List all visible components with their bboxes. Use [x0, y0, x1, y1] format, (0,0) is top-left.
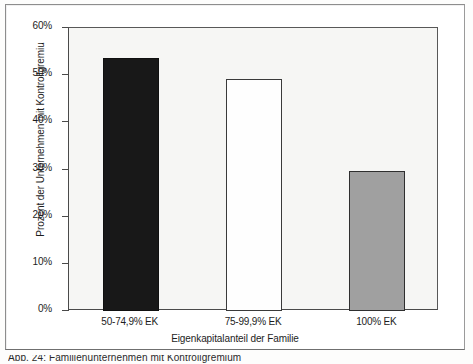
bar-1 — [103, 58, 159, 311]
y-axis-tick-label: 50% — [8, 67, 52, 78]
x-axis-label-2: 75-99,9% EK — [193, 316, 313, 327]
x-axis-label-1: 50-74,9% EK — [70, 316, 190, 327]
figure-caption-strip: Abb. 24: Familienunternehmen mit Kontrol… — [8, 355, 463, 364]
bar-chart: Prozent der Unternehmen mit Kontrollgrem… — [5, 4, 465, 350]
y-axis-tick-label: 10% — [8, 256, 52, 267]
y-axis-tick-label: 0% — [8, 303, 52, 314]
x-axis-title: Eigenkapitalanteil der Familie — [5, 333, 465, 344]
y-axis-tick-label: 20% — [8, 209, 52, 220]
y-axis-tick-label: 40% — [8, 114, 52, 125]
y-axis-title: Prozent der Unternehmen mit Kontrollgrem… — [35, 0, 46, 285]
x-axis-label-3: 100% EK — [316, 316, 436, 327]
bar-2 — [226, 79, 282, 311]
y-axis-tick-label: 30% — [8, 162, 52, 173]
plot-area — [68, 27, 438, 310]
y-axis-tick-label: 60% — [8, 20, 52, 31]
y-axis-tick — [62, 310, 69, 311]
figure-caption: Abb. 24: Familienunternehmen mit Kontrol… — [8, 355, 241, 363]
bar-3 — [349, 171, 405, 311]
